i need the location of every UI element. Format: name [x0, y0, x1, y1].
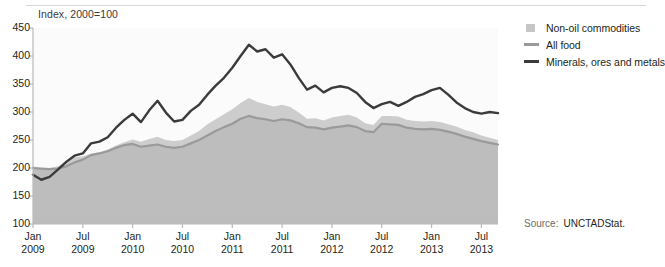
x-tick-label: Jul2013 — [459, 230, 503, 255]
source-note: Source:UNCTADStat. — [524, 218, 625, 229]
x-tick-year: 2012 — [310, 243, 354, 256]
x-tick-month: Jul — [260, 230, 304, 243]
line-swatch-icon-all-food — [524, 39, 539, 50]
x-tick-year: 2009 — [61, 243, 105, 256]
x-tick-label: Jan2010 — [111, 230, 155, 255]
x-tick-month: Jan — [410, 230, 454, 243]
legend-item-all-food: All food — [524, 37, 650, 52]
x-tick-month: Jan — [310, 230, 354, 243]
x-tick-label: Jul2012 — [360, 230, 404, 255]
area-swatch-icon — [524, 22, 539, 33]
x-tick-year: 2009 — [11, 243, 55, 256]
x-tick-month: Jan — [11, 230, 55, 243]
legend-label-minerals: Minerals, ores and metals — [546, 56, 665, 68]
chart-legend: Non-oil commodities All food Minerals, o… — [524, 20, 650, 71]
x-tick-year: 2010 — [160, 243, 204, 256]
legend-label-all-food: All food — [546, 39, 581, 51]
x-tick-year: 2011 — [210, 243, 254, 256]
x-tick-year: 2013 — [459, 243, 503, 256]
x-tick-label: Jul2011 — [260, 230, 304, 255]
x-tick-month: Jul — [360, 230, 404, 243]
x-tick-label: Jan2009 — [11, 230, 55, 255]
x-tick-year: 2013 — [410, 243, 454, 256]
x-tick-year: 2011 — [260, 243, 304, 256]
x-tick-label: Jan2013 — [410, 230, 454, 255]
x-tick-month: Jan — [111, 230, 155, 243]
x-tick-year: 2012 — [360, 243, 404, 256]
source-label: Source: — [524, 218, 558, 229]
x-axis-labels: Jan2009Jul2009Jan2010Jul2010Jan2011Jul20… — [0, 0, 520, 267]
source-value: UNCTADStat. — [563, 218, 625, 229]
x-tick-month: Jul — [459, 230, 503, 243]
legend-item-minerals: Minerals, ores and metals — [524, 54, 650, 69]
x-tick-label: Jul2010 — [160, 230, 204, 255]
x-tick-month: Jan — [210, 230, 254, 243]
x-tick-month: Jul — [61, 230, 105, 243]
legend-label-non-oil-commodities: Non-oil commodities — [546, 22, 640, 34]
x-tick-month: Jul — [160, 230, 204, 243]
x-tick-label: Jul2009 — [61, 230, 105, 255]
x-tick-label: Jan2012 — [310, 230, 354, 255]
legend-item-non-oil-commodities: Non-oil commodities — [524, 20, 650, 35]
x-tick-label: Jan2011 — [210, 230, 254, 255]
line-swatch-icon-minerals — [524, 56, 539, 67]
x-tick-year: 2010 — [111, 243, 155, 256]
